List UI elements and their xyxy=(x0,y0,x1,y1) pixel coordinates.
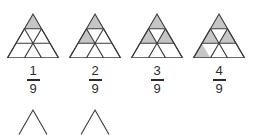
partial-triangle-row xyxy=(0,108,254,135)
cell-r1c1 xyxy=(25,14,42,29)
triangle-diagram-1 xyxy=(7,12,59,58)
fraction-denominator: 9 xyxy=(215,81,222,96)
partial-row-spacer-4 xyxy=(190,108,248,135)
fraction-numerator: 1 xyxy=(29,64,36,79)
figure-triangle-4[interactable]: 4 9 xyxy=(190,12,248,95)
fraction-numerator: 2 xyxy=(91,64,98,79)
fraction-label-3: 3 9 xyxy=(151,64,164,95)
triangle-diagram-4 xyxy=(193,12,245,58)
fraction-label-2: 2 9 xyxy=(89,64,102,95)
cell-r1c1 xyxy=(211,14,228,29)
triangle-figure-row: 1 9 xyxy=(0,12,254,95)
figure-triangle-3[interactable]: 3 9 xyxy=(128,12,186,95)
fraction-numerator: 4 xyxy=(215,64,222,79)
fraction-label-1: 1 9 xyxy=(27,64,40,95)
fraction-denominator: 9 xyxy=(29,81,36,96)
fraction-denominator: 9 xyxy=(153,81,160,96)
figure-partial-triangle-1[interactable] xyxy=(4,108,62,135)
fraction-label-4: 4 9 xyxy=(213,64,226,95)
cell-r1c1 xyxy=(149,14,166,29)
figure-triangle-1[interactable]: 1 9 xyxy=(4,12,62,95)
triangle-diagram-2 xyxy=(69,12,121,58)
partial-row-spacer-3 xyxy=(128,108,186,135)
partial-triangle-apex xyxy=(81,110,109,135)
partial-triangle-apex xyxy=(19,110,47,135)
cell-r1c1 xyxy=(87,14,104,29)
fraction-denominator: 9 xyxy=(91,81,98,96)
fraction-worksheet: 1 9 xyxy=(0,0,254,135)
figure-triangle-2[interactable]: 2 9 xyxy=(66,12,124,95)
fraction-numerator: 3 xyxy=(153,64,160,79)
figure-partial-triangle-2[interactable] xyxy=(66,108,124,135)
triangle-diagram-3 xyxy=(131,12,183,58)
